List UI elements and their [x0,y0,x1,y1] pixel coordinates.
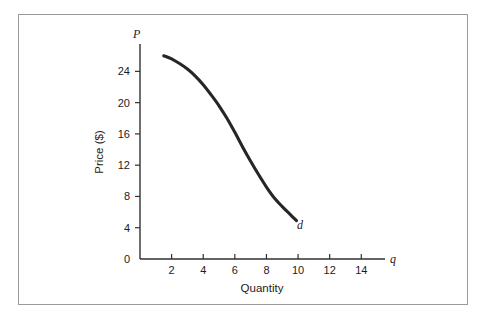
x-tick-label: 6 [232,264,238,276]
y-tick-label: 12 [118,159,130,171]
demand-curve-path [164,56,297,221]
y-axis-symbol-P: P [132,27,141,41]
x-tick-label: 4 [200,264,206,276]
demand-curve-chart: 04812162024 2468101214 d P q Quantity Pr… [0,0,491,321]
y-tick-label: 24 [118,65,130,77]
x-tick-label: 10 [292,264,304,276]
y-tick-label: 20 [118,97,130,109]
x-tick-label: 14 [355,264,367,276]
curve-group [164,56,297,221]
y-axis-title: Price ($) [93,130,105,174]
y-tick-label: 16 [118,128,130,140]
axes-group [140,44,385,259]
figure-container: 04812162024 2468101214 d P q Quantity Pr… [0,0,491,321]
y-tick-label: 4 [124,222,130,234]
y-tick-label: 0 [124,253,130,265]
x-tick-label: 8 [263,264,269,276]
x-ticks-group: 2468101214 [169,254,368,276]
y-ticks-group: 04812162024 [118,65,140,265]
x-axis-title: Quantity [241,282,284,294]
x-axis-symbol-q: q [390,252,396,266]
x-tick-label: 12 [324,264,336,276]
curve-label-d: d [297,218,304,232]
x-tick-label: 2 [169,264,175,276]
y-tick-label: 8 [124,190,130,202]
